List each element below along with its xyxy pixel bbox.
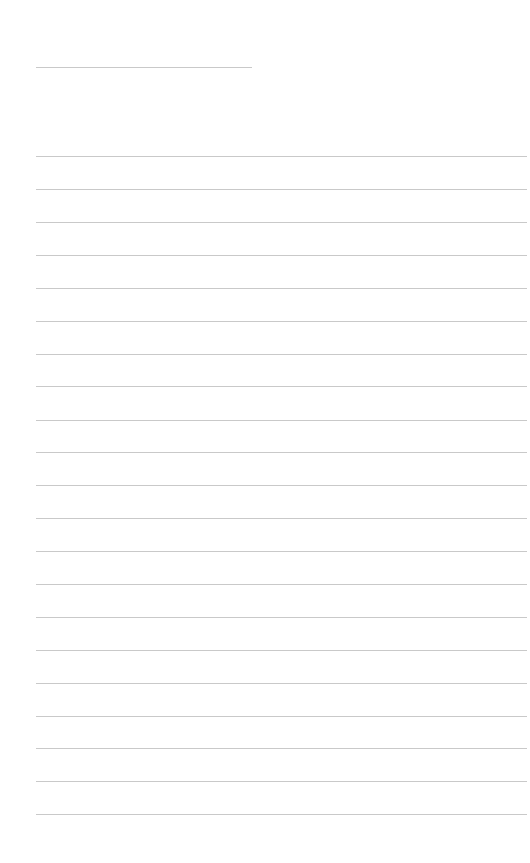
ruled-line xyxy=(36,518,527,519)
ruled-line xyxy=(36,551,527,552)
ruled-line xyxy=(36,222,527,223)
ruled-line xyxy=(36,452,527,453)
ruled-line xyxy=(36,485,527,486)
ruled-line xyxy=(36,156,527,157)
ruled-line xyxy=(36,683,527,684)
ruled-line xyxy=(36,354,527,355)
ruled-line xyxy=(36,584,527,585)
ruled-line xyxy=(36,814,527,815)
lined-paper-page xyxy=(0,0,530,863)
ruled-line xyxy=(36,617,527,618)
ruled-line xyxy=(36,748,527,749)
ruled-line xyxy=(36,189,527,190)
ruled-line xyxy=(36,321,527,322)
ruled-line xyxy=(36,255,527,256)
ruled-line xyxy=(36,781,527,782)
ruled-line xyxy=(36,650,527,651)
ruled-line xyxy=(36,386,527,387)
header-write-line xyxy=(36,67,252,68)
ruled-line xyxy=(36,288,527,289)
ruled-line xyxy=(36,420,527,421)
ruled-line xyxy=(36,716,527,717)
